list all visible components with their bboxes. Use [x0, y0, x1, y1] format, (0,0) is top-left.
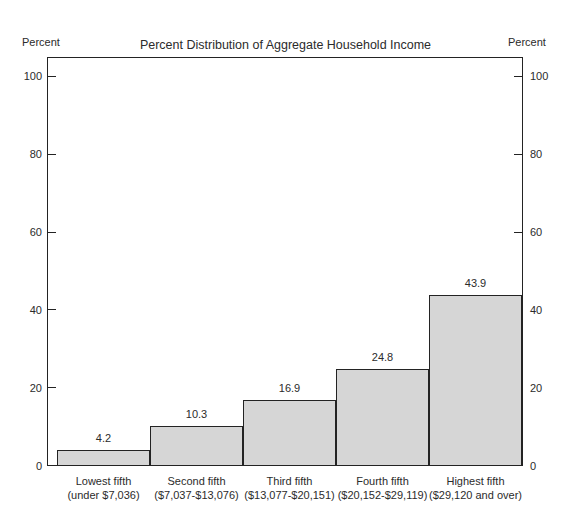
y-axis-tick-label-right-60: 60: [530, 227, 564, 238]
y-axis-tick-left-60: [47, 232, 56, 233]
y-axis-tick-label-right-20: 20: [530, 383, 564, 394]
bar-0[interactable]: [57, 450, 150, 466]
y-axis-tick-label-left-60: 60: [8, 227, 42, 238]
y-axis-tick-label-right-0: 0: [530, 461, 564, 472]
bar-value-label-2: 16.9: [243, 383, 336, 394]
y-axis-tick-label-left-20: 20: [8, 383, 42, 394]
bar-2[interactable]: [243, 400, 336, 466]
bar-1[interactable]: [150, 426, 243, 466]
bar-value-label-4: 43.9: [429, 278, 522, 289]
y-axis-label-right: Percent: [508, 36, 546, 49]
x-axis-category-4: Highest fifth($29,120 and over): [417, 475, 534, 502]
y-axis-tick-label-right-40: 40: [530, 305, 564, 316]
y-axis-tick-label-right-80: 80: [530, 149, 564, 160]
y-axis-tick-left-40: [47, 309, 56, 310]
y-axis-tick-left-100: [47, 76, 56, 77]
y-axis-tick-label-left-40: 40: [8, 305, 42, 316]
plot-area: [47, 57, 523, 466]
y-axis-tick-left-0: [47, 465, 56, 466]
y-axis-tick-label-left-100: 100: [8, 71, 42, 82]
chart-title-line-1: Percent Distribution of Aggregate Househ…: [0, 38, 571, 53]
x-axis-category-range-4: ($29,120 and over): [417, 489, 534, 503]
bar-value-label-3: 24.8: [336, 352, 429, 363]
x-axis-category-name-4: Highest fifth: [417, 475, 534, 489]
y-axis-tick-left-80: [47, 154, 56, 155]
y-axis-tick-label-left-0: 0: [8, 461, 42, 472]
y-axis-tick-label-left-80: 80: [8, 149, 42, 160]
y-axis-tick-label-right-100: 100: [530, 71, 564, 82]
bar-value-label-1: 10.3: [150, 409, 243, 420]
y-axis-tick-right-100: [514, 76, 523, 77]
y-axis-tick-right-80: [514, 154, 523, 155]
bar-value-label-0: 4.2: [57, 433, 150, 444]
bar-3[interactable]: [336, 369, 429, 466]
y-axis-label-left: Percent: [22, 36, 60, 49]
y-axis-tick-left-20: [47, 387, 56, 388]
bar-4[interactable]: [429, 295, 522, 466]
y-axis-tick-right-60: [514, 232, 523, 233]
